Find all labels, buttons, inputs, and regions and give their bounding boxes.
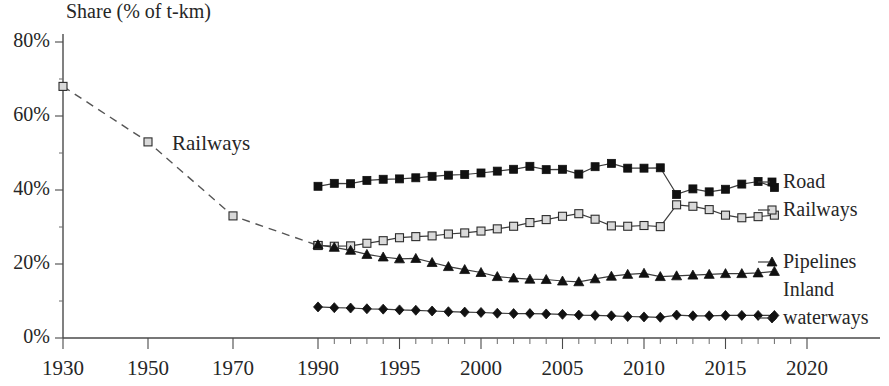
legend-label-railways: Railways — [783, 198, 858, 221]
series-marker — [396, 175, 404, 183]
series-marker — [623, 312, 632, 322]
x-axis-tick-label: 1970 — [212, 356, 254, 380]
y-axis-tick-label: 60% — [13, 103, 50, 125]
series-marker — [542, 166, 550, 174]
series-marker — [574, 310, 583, 320]
series-marker — [510, 222, 518, 230]
series-marker — [412, 174, 420, 182]
series-marker — [738, 180, 746, 188]
series-marker — [428, 306, 437, 316]
series-marker — [526, 162, 534, 170]
y-axis-tick-label: 0% — [23, 325, 50, 347]
series-marker — [721, 310, 730, 320]
series-marker — [754, 310, 763, 320]
chart-title: Share (% of t-km) — [66, 0, 211, 23]
series-marker — [607, 311, 616, 321]
series-marker — [688, 311, 697, 321]
series-marker — [460, 307, 469, 317]
series-marker — [526, 219, 534, 227]
series-marker — [640, 222, 648, 230]
series-marker — [461, 170, 469, 178]
series-marker — [542, 216, 550, 224]
series-marker — [769, 266, 779, 275]
series-marker — [330, 303, 339, 313]
x-axis-tick-label: 1930 — [42, 356, 84, 380]
series-marker — [640, 312, 649, 322]
series-marker — [493, 167, 501, 175]
series-marker — [396, 234, 404, 242]
series-marker — [144, 138, 152, 146]
legend-label-pipelines: Pipelines — [783, 250, 857, 273]
series-marker — [314, 182, 322, 190]
series-marker — [444, 171, 452, 179]
y-axis-tick-label: 40% — [13, 177, 50, 199]
series-marker — [656, 164, 664, 172]
series-marker — [639, 268, 649, 277]
series-marker — [379, 175, 387, 183]
x-axis-tick-label: 2015 — [705, 356, 747, 380]
x-axis-tick-label: 1995 — [379, 356, 421, 380]
series-marker — [363, 239, 371, 247]
series-marker — [559, 165, 567, 173]
series-marker — [607, 222, 615, 230]
series-marker — [722, 211, 730, 219]
series-marker — [461, 229, 469, 237]
legend-label-inland: Inland — [783, 278, 834, 300]
series-marker — [737, 310, 746, 320]
series-marker — [591, 215, 599, 223]
series-marker — [558, 309, 567, 319]
series-marker — [379, 237, 387, 245]
series-marker — [689, 185, 697, 193]
series-marker — [738, 214, 746, 222]
series-marker — [59, 82, 67, 90]
series-marker — [525, 309, 534, 319]
series-marker — [363, 176, 371, 184]
series-marker — [705, 188, 713, 196]
series-marker — [689, 202, 697, 210]
chart-root: 0%20%40%60%80%19301950197019901995200020… — [0, 0, 889, 386]
series-marker — [346, 303, 355, 313]
series-marker — [347, 180, 355, 188]
x-axis-tick-label: 1990 — [297, 356, 339, 380]
series-marker — [477, 307, 486, 317]
chart-text-layer: 0%20%40%60%80%19301950197019901995200020… — [13, 0, 868, 380]
x-axis-tick-label: 2010 — [623, 356, 665, 380]
series-marker — [705, 206, 713, 214]
series-marker — [559, 212, 567, 220]
y-axis-tick-label: 20% — [13, 251, 50, 273]
series-marker — [411, 305, 420, 315]
series-marker — [722, 185, 730, 193]
series-marker — [575, 210, 583, 218]
series-marker — [575, 170, 583, 178]
series-marker — [656, 223, 664, 231]
series-marker — [477, 227, 485, 235]
series-marker — [510, 165, 518, 173]
y-axis-tick-label: 80% — [13, 29, 50, 51]
series-marker — [673, 190, 681, 198]
series-marker — [624, 222, 632, 230]
series-marker — [428, 232, 436, 240]
x-axis-tick-label: 2005 — [542, 356, 584, 380]
series-marker — [624, 164, 632, 172]
legend-label-waterways: waterways — [783, 306, 869, 329]
chart-axes — [55, 34, 880, 349]
series-marker — [656, 312, 665, 322]
series-line — [63, 86, 318, 245]
series-marker — [542, 309, 551, 319]
x-axis-tick-label: 2020 — [786, 356, 828, 380]
x-axis-tick-label: 2000 — [460, 356, 502, 380]
series-marker — [444, 230, 452, 238]
series-marker — [509, 309, 518, 319]
x-axis-tick-label: 1950 — [127, 356, 169, 380]
series-marker — [314, 302, 323, 312]
series-marker — [395, 305, 404, 315]
series-marker — [591, 310, 600, 320]
series-marker — [591, 163, 599, 171]
chart-series — [59, 82, 779, 322]
series-marker — [754, 213, 762, 221]
series-marker — [705, 311, 714, 321]
series-marker — [379, 304, 388, 314]
series-marker — [428, 172, 436, 180]
series-marker — [672, 310, 681, 320]
legend-label-road: Road — [783, 170, 825, 192]
